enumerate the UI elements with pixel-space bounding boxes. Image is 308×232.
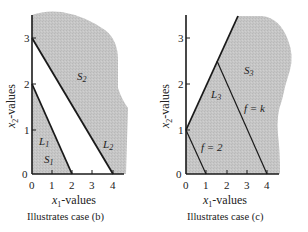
caption-case-c: Illustrates case (c)	[187, 211, 264, 223]
y-axis-title: x2-values	[158, 84, 174, 129]
y-tick-label-3: 3	[178, 32, 184, 44]
x-tick-label-3: 3	[244, 179, 250, 191]
y-tick-label-2: 2	[178, 78, 184, 90]
y-tick-label-0: 0	[22, 168, 28, 180]
y-tick-label-1: 1	[178, 124, 184, 136]
panel-case-c: 0 1 2 3 0 1 2 3 4 x1-values x2-values S3…	[158, 15, 292, 223]
x-tick-label-4: 4	[264, 179, 270, 191]
y-tick-label-3: 3	[24, 32, 30, 44]
figure: 0 1 2 3 0 1 2 3 4 x1-values x2-values S2…	[0, 0, 308, 232]
caption-case-b: Illustrates case (b)	[27, 211, 104, 223]
label-f-equals-2: f = 2	[201, 141, 223, 153]
x-axis-title: x1-values	[202, 193, 247, 209]
y-tick-label-1: 1	[24, 124, 30, 136]
y-tick-label-0: 0	[176, 168, 182, 180]
x-tick-label-0: 0	[29, 179, 35, 191]
label-f-equals-k: f = k	[244, 102, 266, 114]
x-tick-label-2: 2	[224, 179, 230, 191]
y-axis-title: x2-values	[4, 84, 20, 129]
x-tick-label-1: 1	[49, 179, 55, 191]
y-tick-label-2: 2	[24, 78, 30, 90]
x-tick-label-3: 3	[89, 179, 95, 191]
x-tick-label-1: 1	[203, 179, 209, 191]
panel-case-b: 0 1 2 3 0 1 2 3 4 x1-values x2-values S2…	[4, 11, 128, 223]
x-tick-label-2: 2	[69, 179, 75, 191]
x-tick-label-4: 4	[110, 179, 116, 191]
x-axis-title: x1-values	[51, 193, 96, 209]
x-tick-label-0: 0	[183, 179, 189, 191]
